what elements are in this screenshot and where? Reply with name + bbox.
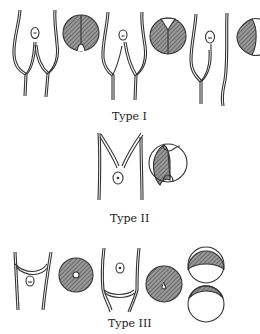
u-cup-icon-2	[101, 248, 140, 312]
type1-label: Type I	[112, 110, 147, 123]
type3-label: Type III	[108, 317, 152, 330]
hatched-circle-mark-icon	[146, 266, 182, 302]
type2-label: Type II	[110, 212, 149, 225]
hatched-ring-icon	[59, 258, 93, 292]
fork-single-strand-icon	[190, 13, 228, 106]
fork-with-oval-icon	[102, 12, 147, 100]
stacked-circles-icon	[188, 247, 224, 322]
paired-fork-icon	[13, 10, 59, 97]
type2-group	[98, 133, 187, 200]
v-fork-icon	[98, 133, 143, 200]
type1-group	[13, 10, 260, 106]
type3-group	[14, 247, 224, 322]
half-hatched-circle-icon	[149, 144, 187, 185]
u-cup-icon-1	[14, 252, 52, 310]
hatched-lens-icon	[237, 19, 260, 56]
hatched-circle-notch-top-icon	[150, 18, 186, 54]
type-diagram: Type I Type II	[0, 0, 260, 334]
hatched-circle-notch-bottom-icon	[63, 15, 99, 51]
